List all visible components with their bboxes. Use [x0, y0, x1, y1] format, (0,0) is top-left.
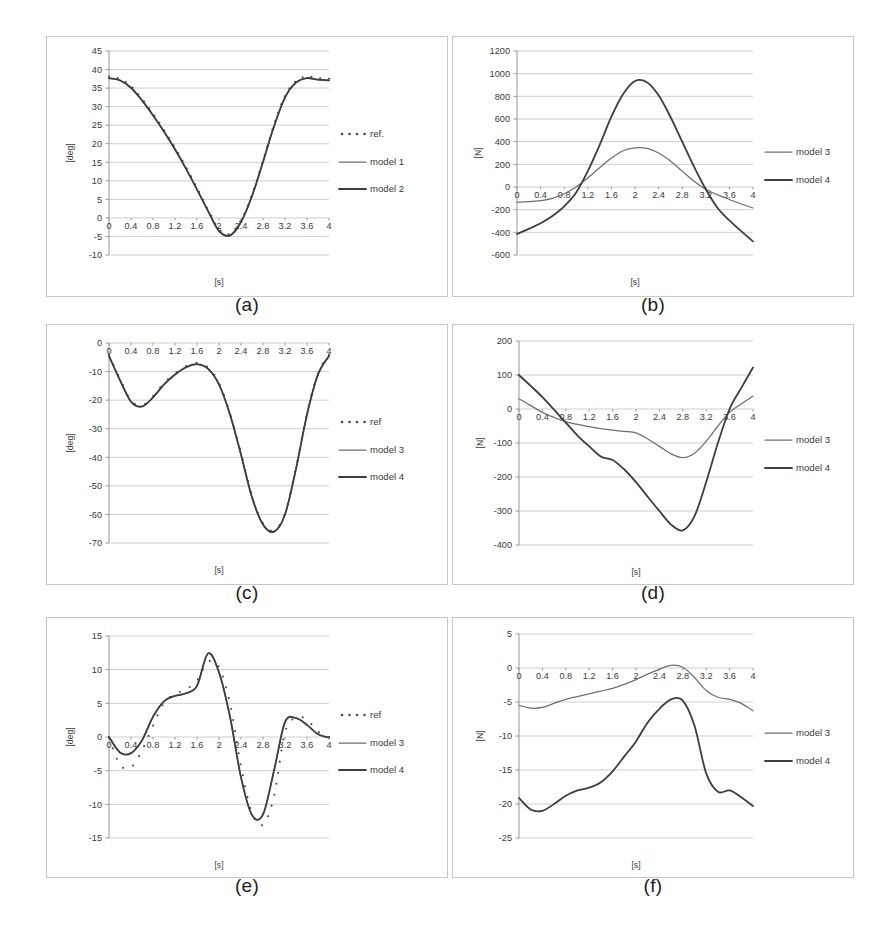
y-tick-label: -100 — [494, 438, 512, 448]
y-tick-label: -5 — [94, 232, 102, 242]
y-axis-title: [deg] — [65, 433, 75, 452]
plot-f: -25-20-15-10-50500.40.81.21.622.42.83.23… — [453, 618, 853, 877]
plot-b: -600-400-20002004006008001000120000.40.8… — [453, 37, 853, 296]
x-tick-label: 2.4 — [652, 190, 665, 200]
x-axis-title: [s] — [631, 567, 640, 577]
x-tick-label: 0.4 — [534, 190, 547, 200]
y-tick-label: -5 — [94, 766, 102, 776]
x-tick-label: 1.6 — [191, 221, 204, 231]
legend-label: model 3 — [796, 434, 830, 445]
x-tick-label: 1.6 — [191, 346, 204, 356]
y-tick-label: 1200 — [490, 46, 510, 56]
y-tick-label: 10 — [92, 665, 102, 675]
y-tick-label: -20 — [89, 395, 102, 405]
y-tick-label: 25 — [92, 120, 102, 130]
x-tick-label: 1.2 — [169, 346, 182, 356]
legend-label: model 3 — [370, 737, 404, 748]
y-tick-label: 40 — [92, 65, 102, 75]
legend-label: model 1 — [370, 156, 404, 167]
plot-e: -15-10-505101500.40.81.21.622.42.83.23.6… — [47, 618, 447, 877]
y-tick-label: 5 — [507, 629, 512, 639]
legend-item-ref: ref — [341, 416, 382, 427]
y-tick-label: 0 — [97, 732, 102, 742]
y-tick-label: 800 — [495, 92, 510, 102]
x-tick-label: 1.2 — [583, 412, 596, 422]
x-axis-title: [s] — [214, 277, 223, 287]
x-tick-label: 2.8 — [676, 671, 689, 681]
panel-a: -10-505101520253035404500.40.81.21.622.4… — [46, 36, 448, 297]
y-tick-label: -15 — [499, 765, 512, 775]
panel-d: -400-300-200-100010020000.40.81.21.622.4… — [452, 324, 854, 585]
x-tick-label: 1.2 — [581, 190, 594, 200]
x-tick-label: 4 — [750, 412, 755, 422]
x-axis-title: [s] — [630, 277, 639, 287]
x-tick-label: 2.8 — [257, 740, 270, 750]
x-tick-label: 2 — [216, 346, 221, 356]
panel-f: -25-20-15-10-50500.40.81.21.622.42.83.23… — [452, 617, 854, 878]
y-tick-label: 0 — [505, 182, 510, 192]
y-tick-label: -600 — [492, 250, 510, 260]
legend-label: model 3 — [796, 727, 830, 738]
y-tick-label: 200 — [495, 160, 510, 170]
y-tick-label: 1000 — [490, 69, 510, 79]
series-line-model-3 — [109, 653, 329, 820]
panel-c: -70-60-50-40-30-20-10000.40.81.21.622.42… — [46, 324, 448, 585]
y-tick-label: -10 — [89, 800, 102, 810]
y-axis-title: [N] — [473, 148, 483, 159]
y-tick-label: 45 — [92, 46, 102, 56]
series-line-model-4 — [109, 356, 329, 532]
y-tick-label: 200 — [497, 336, 512, 346]
series-line-model-2 — [109, 78, 329, 236]
x-axis-title: [s] — [214, 565, 223, 575]
x-tick-label: 0.8 — [147, 221, 160, 231]
y-tick-label: -20 — [499, 799, 512, 809]
y-tick-label: -400 — [492, 228, 510, 238]
panel-caption-d: (d) — [452, 582, 854, 604]
series-line-model-3 — [519, 396, 753, 458]
plot-c: -70-60-50-40-30-20-10000.40.81.21.622.42… — [47, 325, 447, 584]
x-tick-label: 4 — [750, 671, 755, 681]
x-tick-label: 0.4 — [125, 221, 138, 231]
x-tick-label: 3.6 — [301, 346, 314, 356]
x-tick-label: 2 — [633, 412, 638, 422]
panel-caption-a: (a) — [46, 294, 448, 316]
y-tick-label: 600 — [495, 114, 510, 124]
y-tick-label: 100 — [497, 370, 512, 380]
x-tick-label: 2.4 — [235, 346, 248, 356]
y-tick-label: 0 — [507, 404, 512, 414]
panel-caption-b: (b) — [452, 294, 854, 316]
x-tick-label: 2.8 — [257, 346, 270, 356]
x-tick-label: 0 — [106, 221, 111, 231]
x-tick-label: 3.2 — [279, 346, 292, 356]
y-tick-label: 5 — [97, 195, 102, 205]
legend-label: ref — [370, 709, 382, 720]
series-line-model-4 — [109, 653, 329, 820]
legend-item-model-3: model 3 — [339, 444, 404, 455]
x-tick-label: 3.2 — [700, 671, 713, 681]
y-tick-label: -200 — [494, 472, 512, 482]
x-tick-label: 2 — [632, 190, 637, 200]
legend-label: model 3 — [370, 444, 404, 455]
legend-item-model-4: model 4 — [765, 462, 831, 473]
y-tick-label: -70 — [89, 538, 102, 548]
legend-item-model-4: model 4 — [765, 755, 831, 766]
legend-item-model-3: model 3 — [765, 434, 830, 445]
x-tick-label: 3.6 — [301, 221, 314, 231]
legend-label: model 4 — [796, 174, 831, 185]
x-tick-label: 0.4 — [536, 412, 549, 422]
x-tick-label: 0.8 — [559, 671, 572, 681]
x-tick-label: 4 — [326, 221, 331, 231]
y-tick-label: -30 — [89, 424, 102, 434]
plot-a: -10-505101520253035404500.40.81.21.622.4… — [47, 37, 447, 296]
x-tick-label: 2.8 — [676, 412, 689, 422]
y-tick-label: -15 — [89, 833, 102, 843]
y-tick-label: -40 — [89, 453, 102, 463]
y-tick-label: -10 — [89, 367, 102, 377]
x-tick-label: 1.6 — [606, 412, 619, 422]
y-tick-label: 0 — [97, 338, 102, 348]
series-ref-dots — [108, 354, 330, 532]
figure-root: -10-505101520253035404500.40.81.21.622.4… — [0, 0, 893, 936]
series-line-model-4 — [519, 698, 753, 812]
y-axis-title: [N] — [475, 731, 485, 742]
x-tick-label: 0.8 — [147, 346, 160, 356]
